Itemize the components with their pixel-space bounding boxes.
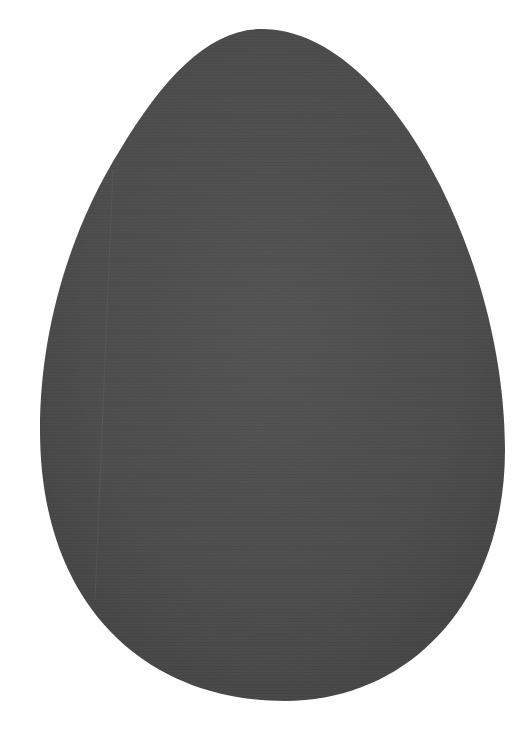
egg-texture <box>40 29 505 701</box>
egg-image <box>0 0 532 733</box>
egg-scene <box>0 0 532 733</box>
